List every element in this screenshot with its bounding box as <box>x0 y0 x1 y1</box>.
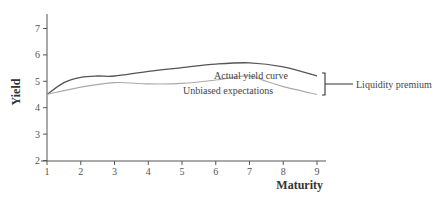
y-tick-label: 2 <box>35 155 40 166</box>
x-tick-label: 5 <box>180 166 185 177</box>
liquidity-premium-label: Liquidity premium <box>356 79 432 90</box>
x-tick-label: 6 <box>213 166 218 177</box>
x-tick-label: 9 <box>315 166 320 177</box>
unbiased-expectations-label: Unbiased expectations <box>183 85 273 96</box>
x-tick-label: 3 <box>112 166 117 177</box>
y-tick-label: 5 <box>35 76 40 87</box>
y-tick-label: 4 <box>35 102 40 113</box>
x-ticks: 123456789 <box>45 161 320 177</box>
yield-curve-chart: Yield 234567 123456789 Actual yield curv… <box>0 0 442 203</box>
x-tick-label: 4 <box>146 166 151 177</box>
x-axis-label: Maturity <box>276 178 323 192</box>
y-ticks: 234567 <box>35 23 47 166</box>
actual-yield-curve-label: Actual yield curve <box>214 70 288 81</box>
y-tick-label: 3 <box>35 129 40 140</box>
x-tick-label: 7 <box>247 166 252 177</box>
y-tick-label: 6 <box>35 49 40 60</box>
x-tick-label: 2 <box>78 166 83 177</box>
y-tick-label: 7 <box>35 23 40 34</box>
y-axis-label: Yield <box>9 78 23 105</box>
x-tick-label: 1 <box>45 166 50 177</box>
liquidity-premium-bracket <box>322 73 353 95</box>
x-tick-label: 8 <box>281 166 286 177</box>
